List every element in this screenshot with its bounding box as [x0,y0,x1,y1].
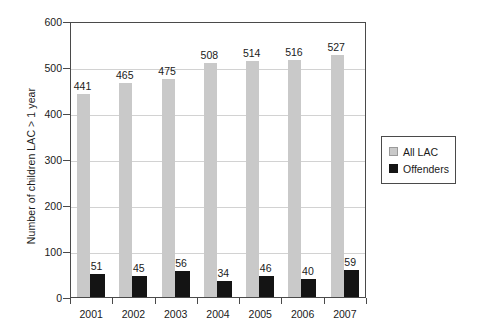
y-axis-tick-mark [63,298,70,299]
bar-value-label-all-lac: 514 [232,48,272,59]
bar-all-lac[interactable] [246,61,259,297]
y-axis-tick-mark [63,22,70,23]
x-axis-tick-mark [366,298,367,304]
y-axis-tick-label: 200 [22,201,62,211]
legend: All LAC Offenders [381,136,456,184]
bar-value-label-offenders: 56 [161,258,201,269]
gridline [71,253,365,254]
x-axis-tick-mark [70,298,71,304]
plot-area [70,22,366,298]
bar-offenders[interactable] [344,270,359,297]
y-axis-tick-mark [63,252,70,253]
bar-chart-figure: Number of children LAC > 1 year 01002003… [0,0,480,333]
bar-all-lac[interactable] [204,63,217,297]
y-axis-tick-label: 600 [22,17,62,27]
x-axis-tick-mark [112,298,113,304]
bar-value-label-all-lac: 516 [274,47,314,58]
bar-all-lac[interactable] [288,60,301,297]
bar-offenders[interactable] [301,279,316,297]
gridline [71,161,365,162]
legend-label-all-lac: All LAC [403,146,438,158]
y-axis-tick-mark [63,68,70,69]
bar-value-label-all-lac: 475 [147,66,187,77]
legend-label-offenders: Offenders [403,163,449,175]
offenders-swatch-icon [389,164,398,173]
bar-value-label-all-lac: 508 [189,50,229,61]
gridline [71,207,365,208]
bar-offenders[interactable] [175,271,190,297]
bar-value-label-all-lac: 441 [63,81,103,92]
x-axis-tick-mark [155,298,156,304]
legend-item-all-lac[interactable]: All LAC [389,143,449,160]
bar-offenders[interactable] [90,274,105,297]
bar-offenders[interactable] [259,276,274,297]
all-lac-swatch-icon [389,147,398,156]
y-axis-tick-label: 0 [22,293,62,303]
x-axis-tick-mark [324,298,325,304]
bar-value-label-offenders: 59 [330,257,370,268]
y-axis-tick-label: 500 [22,63,62,73]
bar-value-label-offenders: 46 [246,263,286,274]
y-axis-tick-label: 100 [22,247,62,257]
y-axis-tick-label: 300 [22,155,62,165]
legend-item-offenders[interactable]: Offenders [389,160,449,177]
bar-value-label-offenders: 45 [119,263,159,274]
y-axis-tick-mark [63,160,70,161]
gridline [71,115,365,116]
bar-value-label-offenders: 40 [288,266,328,277]
bar-offenders[interactable] [217,281,232,297]
bar-value-label-offenders: 34 [203,268,243,279]
y-axis-tick-mark [63,114,70,115]
y-axis-tick-mark [63,206,70,207]
x-axis-tick-mark [281,298,282,304]
x-axis-tick-mark [197,298,198,304]
x-axis-tick-mark [239,298,240,304]
bar-offenders[interactable] [132,276,147,297]
bar-value-label-all-lac: 527 [316,42,356,53]
y-axis-tick-label: 400 [22,109,62,119]
x-axis-tick-label: 2007 [315,308,375,320]
bar-value-label-all-lac: 465 [105,70,145,81]
bar-value-label-offenders: 51 [77,261,117,272]
